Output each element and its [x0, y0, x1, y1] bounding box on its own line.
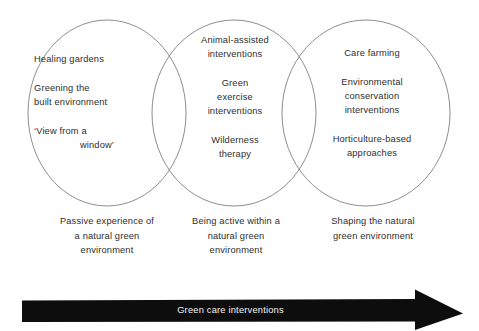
venn-left-item-3: ‘View from a window’ [34, 124, 154, 152]
venn-middle-item-3-line-1: Wilderness [175, 133, 295, 147]
venn-middle-item-1-line-1: Animal-assisted [175, 33, 295, 47]
venn-middle-item-2-line-3: interventions [175, 104, 295, 118]
venn-left-item-1-line-1: Healing gardens [34, 52, 154, 66]
venn-right-item-3: Horticulture-based approaches [306, 132, 438, 160]
venn-middle-item-3-line-2: therapy [175, 147, 295, 161]
venn-middle-caption-line-3: environment [170, 243, 302, 258]
venn-right-item-3-line-1: Horticulture-based [306, 132, 438, 146]
venn-right-item-2-line-1: Environmental [306, 75, 438, 89]
venn-middle-item-1: Animal-assisted interventions [175, 33, 295, 61]
venn-right-item-2-line-2: conservation [306, 89, 438, 103]
venn-middle-items: Animal-assisted interventions Green exer… [175, 33, 295, 161]
venn-right-item-2-line-3: interventions [306, 103, 438, 117]
venn-left-item-2-line-1: Greening the [34, 81, 154, 95]
venn-right-item-2: Environmental conservation interventions [306, 75, 438, 117]
venn-right-caption: Shaping the natural green environment [303, 214, 443, 243]
venn-left-caption-line-3: environment [25, 243, 189, 258]
venn-right-item-1-line-1: Care farming [306, 46, 438, 60]
venn-left-items: Healing gardens Greening the built envir… [34, 52, 154, 152]
venn-right-caption-line-2: green environment [303, 229, 443, 244]
venn-right-item-3-line-2: approaches [306, 146, 438, 160]
venn-left-item-2-line-2: built environment [34, 95, 154, 109]
venn-middle-caption-line-2: natural green [170, 229, 302, 244]
venn-middle-caption: Being active within a natural green envi… [170, 214, 302, 258]
venn-middle-item-2-line-2: exercise [175, 90, 295, 104]
venn-right-caption-line-1: Shaping the natural [303, 214, 443, 229]
continuum-arrow-banner: Green care interventions [0, 288, 479, 331]
venn-left-item-3-line-2: window’ [34, 138, 154, 152]
venn-middle-item-2: Green exercise interventions [175, 76, 295, 118]
venn-left-caption-line-2: a natural green [25, 229, 189, 244]
venn-left-item-3-line-1: ‘View from a [34, 124, 154, 138]
arrow-label: Green care interventions [0, 288, 479, 331]
venn-right-item-1: Care farming [306, 46, 438, 60]
venn-right-items: Care farming Environmental conservation … [306, 46, 438, 160]
venn-middle-item-1-line-2: interventions [175, 47, 295, 61]
venn-middle-caption-line-1: Being active within a [170, 214, 302, 229]
venn-left-caption-line-1: Passive experience of [25, 214, 189, 229]
venn-middle-item-2-line-1: Green [175, 76, 295, 90]
venn-middle-item-3: Wilderness therapy [175, 133, 295, 161]
venn-left-item-2: Greening the built environment [34, 81, 154, 109]
venn-diagram-figure: Healing gardens Greening the built envir… [0, 0, 479, 331]
venn-left-item-1: Healing gardens [34, 52, 154, 66]
venn-left-caption: Passive experience of a natural green en… [25, 214, 189, 258]
